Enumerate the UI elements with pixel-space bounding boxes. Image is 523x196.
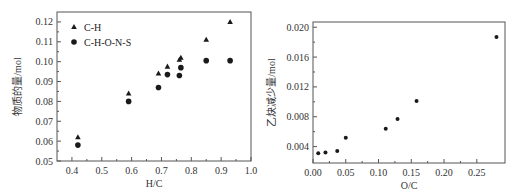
y-tick-label: 0.06 bbox=[36, 136, 54, 147]
x-tick-label: 0.10 bbox=[370, 167, 388, 178]
x-tick-label: 0.8 bbox=[185, 165, 198, 176]
x-tick-label: 1.0 bbox=[245, 165, 258, 176]
x-tick-label: 0.9 bbox=[215, 165, 228, 176]
circle-marker bbox=[203, 58, 209, 64]
triangle-marker bbox=[203, 37, 209, 42]
legend-label: C-H bbox=[84, 22, 101, 33]
triangle-marker bbox=[75, 134, 81, 139]
x-tick-label: 0.6 bbox=[125, 165, 138, 176]
circle-marker bbox=[178, 65, 184, 71]
y-tick-label: 0.12 bbox=[36, 16, 54, 27]
y-tick-label: 0.004 bbox=[287, 141, 310, 152]
y-tick-label: 0.016 bbox=[287, 52, 310, 63]
circle-marker bbox=[227, 58, 233, 64]
figure-canvas: 0.40.50.60.70.80.91.00.050.060.070.080.0… bbox=[0, 0, 523, 196]
x-axis-title: H/C bbox=[146, 178, 163, 189]
circle-marker bbox=[126, 99, 132, 105]
y-tick-label: 0.08 bbox=[36, 96, 54, 107]
y-tick-label: 0.012 bbox=[287, 81, 310, 92]
y-tick-label: 0.008 bbox=[287, 111, 310, 122]
x-tick-label: 0.20 bbox=[435, 167, 453, 178]
x-tick-label: 0.5 bbox=[96, 165, 109, 176]
circle-marker bbox=[156, 85, 162, 91]
y-tick-label: 0.11 bbox=[36, 36, 53, 47]
legend-label: C-H-O-N-S bbox=[84, 37, 131, 48]
y-axis-title: 物质的量/mol bbox=[11, 57, 23, 116]
x-tick-label: 0.15 bbox=[403, 167, 421, 178]
x-tick-label: 0.7 bbox=[155, 165, 168, 176]
triangle-marker bbox=[71, 24, 77, 29]
triangle-marker bbox=[165, 64, 171, 69]
triangle-marker bbox=[126, 90, 132, 95]
circle-marker bbox=[415, 99, 419, 103]
circle-marker bbox=[335, 149, 339, 153]
y-tick-label: 0.07 bbox=[36, 116, 54, 127]
circle-marker bbox=[165, 72, 171, 78]
circle-marker bbox=[494, 35, 498, 39]
circle-marker bbox=[177, 73, 183, 79]
y-tick-label: 0.09 bbox=[36, 76, 54, 87]
circle-marker bbox=[323, 151, 327, 155]
circle-marker bbox=[316, 151, 320, 155]
y-tick-label: 0.05 bbox=[36, 156, 54, 167]
plot-frame bbox=[313, 22, 505, 163]
circle-marker bbox=[384, 127, 388, 131]
chart-oc-vs-acetylene-reduction: 0.000.050.100.150.200.250.0040.0080.0120… bbox=[266, 22, 505, 191]
circle-marker bbox=[344, 136, 348, 140]
triangle-marker bbox=[156, 71, 162, 76]
y-tick-label: 0.10 bbox=[36, 56, 54, 67]
circle-marker bbox=[396, 117, 400, 121]
y-tick-label: 0.020 bbox=[287, 22, 310, 33]
triangle-marker bbox=[178, 55, 184, 60]
plot-frame bbox=[57, 12, 251, 161]
circle-marker bbox=[71, 39, 77, 45]
x-tick-label: 0.05 bbox=[337, 167, 355, 178]
triangle-marker bbox=[227, 19, 233, 24]
x-tick-label: 0.4 bbox=[66, 165, 79, 176]
y-axis-title: 乙炔减少量/mol bbox=[266, 58, 277, 127]
x-tick-label: 0.25 bbox=[468, 167, 486, 178]
x-axis-title: O/C bbox=[401, 180, 418, 191]
chart-hc-vs-amount: 0.40.50.60.70.80.91.00.050.060.070.080.0… bbox=[11, 12, 257, 189]
x-tick-label: 0.00 bbox=[304, 167, 322, 178]
circle-marker bbox=[75, 142, 81, 148]
